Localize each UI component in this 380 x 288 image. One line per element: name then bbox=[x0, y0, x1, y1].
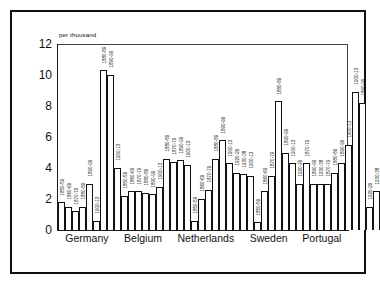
bar-item[interactable]: 1890-99 bbox=[310, 44, 317, 230]
bar-item[interactable]: 1930-38 bbox=[240, 44, 247, 230]
bar-item[interactable]: 1880-89 bbox=[163, 44, 170, 230]
bar-rect[interactable] bbox=[240, 174, 247, 230]
bar-rect[interactable] bbox=[86, 184, 93, 231]
bar-rect[interactable] bbox=[317, 184, 324, 231]
bar-rect[interactable] bbox=[114, 168, 121, 230]
bar-item[interactable]: 1900-13 bbox=[184, 44, 191, 230]
bar-rect[interactable] bbox=[58, 202, 65, 230]
bar-item[interactable]: 1860-69 bbox=[198, 44, 205, 230]
bar-rect[interactable] bbox=[163, 159, 170, 230]
bar-rect[interactable] bbox=[254, 222, 261, 230]
bar-rect[interactable] bbox=[79, 207, 86, 230]
bar-item[interactable]: 1890-99 bbox=[107, 44, 114, 230]
bar-item[interactable]: 1930-38 bbox=[317, 44, 324, 230]
bar-rect[interactable] bbox=[233, 173, 240, 230]
bar-rect[interactable] bbox=[331, 173, 338, 230]
bar-rect[interactable] bbox=[177, 160, 184, 230]
bar-rect[interactable] bbox=[100, 70, 107, 230]
bar-item[interactable]: 1880-89 bbox=[331, 44, 338, 230]
bar-rect[interactable] bbox=[219, 140, 226, 230]
bar-rect[interactable] bbox=[282, 153, 289, 231]
bar-item[interactable]: 1870-79 bbox=[135, 44, 142, 230]
bar-item[interactable]: 1870-79 bbox=[303, 44, 310, 230]
bar-rect[interactable] bbox=[107, 75, 114, 230]
bar-item[interactable]: 1890-99 bbox=[149, 44, 156, 230]
bar-item[interactable]: 1890-99 bbox=[219, 44, 226, 230]
bar-item[interactable]: 1850-59 bbox=[121, 44, 128, 230]
bar-group-sweden: 1850-591860-691870-791880-891890-991900-… bbox=[254, 44, 324, 230]
bar-rect[interactable] bbox=[226, 163, 233, 230]
bar-item[interactable]: 1860-69 bbox=[261, 44, 268, 230]
bar-item[interactable]: 1920-29 bbox=[296, 44, 303, 230]
bar-rect[interactable] bbox=[191, 221, 198, 230]
bar-item[interactable]: 1860-69 bbox=[65, 44, 72, 230]
bar-item[interactable]: 1880-89 bbox=[212, 44, 219, 230]
bar-item[interactable]: 1870-79 bbox=[170, 44, 177, 230]
bar-rect[interactable] bbox=[170, 162, 177, 230]
bar-item[interactable]: 1920-29 bbox=[233, 44, 240, 230]
bar-rect[interactable] bbox=[205, 190, 212, 230]
bar-rect[interactable] bbox=[338, 163, 345, 230]
bar-rect[interactable] bbox=[310, 184, 317, 231]
bar-item[interactable]: 1880-89 bbox=[275, 44, 282, 230]
bar-item[interactable]: 1870-79 bbox=[205, 44, 212, 230]
bar-rect[interactable] bbox=[121, 196, 128, 230]
bar-item[interactable]: 1890-99 bbox=[282, 44, 289, 230]
bar-rect[interactable] bbox=[212, 159, 219, 230]
bar-item[interactable]: 1890-99 bbox=[359, 44, 366, 230]
bar-rect[interactable] bbox=[345, 145, 352, 230]
bar-item[interactable]: 1850-59 bbox=[254, 44, 261, 230]
bar-rect[interactable] bbox=[296, 184, 303, 231]
bar-item[interactable]: 1900-13 bbox=[156, 44, 163, 230]
bar-rect[interactable] bbox=[128, 191, 135, 230]
bar-rect[interactable] bbox=[198, 199, 205, 230]
bar-item[interactable]: 1880-89 bbox=[100, 44, 107, 230]
bar-item[interactable]: 1900-13 bbox=[226, 44, 233, 230]
bar-item[interactable]: 1850-59 bbox=[58, 44, 65, 230]
bar-item[interactable]: 1890-99 bbox=[86, 44, 93, 230]
bar-rect[interactable] bbox=[352, 92, 359, 230]
bar-rect[interactable] bbox=[65, 207, 72, 230]
bar-rect[interactable] bbox=[359, 103, 366, 230]
bar-rect[interactable] bbox=[93, 221, 100, 230]
bar-rect[interactable] bbox=[156, 187, 163, 230]
bar-rect[interactable] bbox=[366, 207, 373, 230]
bar-rect[interactable] bbox=[247, 176, 254, 230]
bar-item[interactable]: 1870-79 bbox=[324, 44, 331, 230]
bar-rect[interactable] bbox=[72, 211, 79, 230]
bar-item[interactable]: 1880-89 bbox=[142, 44, 149, 230]
bar-item[interactable]: 1900-13 bbox=[114, 44, 121, 230]
bars-row: 1850-591860-691870-791880-891890-991900-… bbox=[254, 44, 324, 230]
bar-item[interactable]: 1870-79 bbox=[72, 44, 79, 230]
y-tick-8: 8 bbox=[45, 100, 52, 112]
bar-item[interactable]: 1900-13 bbox=[352, 44, 359, 230]
bar-rect[interactable] bbox=[373, 191, 380, 230]
bar-item[interactable]: 1900-13 bbox=[93, 44, 100, 230]
bar-item[interactable]: 1890-99 bbox=[338, 44, 345, 230]
bar-rect[interactable] bbox=[149, 194, 156, 230]
bar-item[interactable]: 1870-79 bbox=[268, 44, 275, 230]
bar-rect[interactable] bbox=[268, 176, 275, 230]
bar-item[interactable]: 1900-13 bbox=[345, 44, 352, 230]
bar-rect[interactable] bbox=[142, 193, 149, 230]
bar-rect[interactable] bbox=[275, 101, 282, 230]
bar-period-label: 1930-38 bbox=[375, 167, 380, 184]
bar-item[interactable]: 1860-69 bbox=[128, 44, 135, 230]
bar-rect[interactable] bbox=[261, 191, 268, 230]
bar-item[interactable]: 1850-59 bbox=[191, 44, 198, 230]
bar-rect[interactable] bbox=[135, 191, 142, 230]
bar-item[interactable]: 1890-99 bbox=[177, 44, 184, 230]
bar-rect[interactable] bbox=[303, 163, 310, 230]
bars-row: 1870-791880-891890-991900-131900-131890-… bbox=[324, 44, 380, 230]
bar-rect[interactable] bbox=[184, 165, 191, 230]
y-tick-4: 4 bbox=[45, 162, 52, 174]
bar-item[interactable]: 1920-29 bbox=[366, 44, 373, 230]
bar-rect[interactable] bbox=[324, 184, 331, 231]
bars-row: 1850-591860-691870-791880-891890-991900-… bbox=[58, 44, 121, 230]
bar-item[interactable]: 1900-13 bbox=[247, 44, 254, 230]
bar-item[interactable]: 1930-38 bbox=[373, 44, 380, 230]
bar-rect[interactable] bbox=[289, 163, 296, 230]
bar-item[interactable]: 1900-13 bbox=[289, 44, 296, 230]
bar-item[interactable]: 1880-89 bbox=[79, 44, 86, 230]
